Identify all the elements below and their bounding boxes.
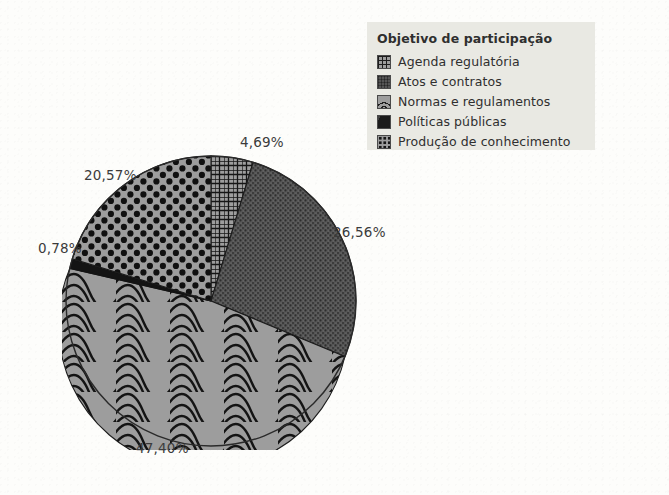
pie-chart <box>62 152 360 450</box>
pie-value-label-politicas-publicas: 0,78% <box>38 240 82 256</box>
pie-value-label-atos-e-contratos: 26,56% <box>333 224 386 240</box>
legend-item-politicas-publicas[interactable]: Políticas públicas <box>377 112 595 131</box>
dark-stipple-swatch-icon <box>377 75 391 89</box>
legend-item-producao-de-conhecimento[interactable]: Produção de conhecimento <box>377 132 595 151</box>
legend-item-label: Agenda regulatória <box>398 54 520 69</box>
legend-item-normas-e-regulamentos[interactable]: Normas e regulamentos <box>377 92 595 111</box>
legend-item-label: Atos e contratos <box>398 74 502 89</box>
polka-dots-swatch-icon <box>377 135 391 149</box>
chart-legend: Objetivo de participação Agenda regulató… <box>367 22 595 150</box>
legend-item-label: Produção de conhecimento <box>398 134 571 149</box>
pie-value-label-producao-de-conhecimento: 20,57% <box>84 167 137 183</box>
solid-black-swatch-icon <box>377 115 391 129</box>
legend-item-atos-e-contratos[interactable]: Atos e contratos <box>377 72 595 91</box>
chart-page: 4,69% 26,56% 47,40% 0,78% 20,57% Objetiv… <box>0 0 669 495</box>
wavy-arcs-swatch-icon <box>377 95 391 109</box>
pie-value-label-normas-e-regulamentos: 47,40% <box>136 440 189 456</box>
legend-item-label: Políticas públicas <box>398 114 507 129</box>
legend-item-agenda-regulatoria[interactable]: Agenda regulatória <box>377 52 595 71</box>
crosshatch-grid-swatch-icon <box>377 55 391 69</box>
pie-chart-svg <box>62 152 360 450</box>
pie-value-label-agenda-regulatoria: 4,69% <box>240 134 284 150</box>
legend-item-label: Normas e regulamentos <box>398 94 550 109</box>
legend-title: Objetivo de participação <box>377 31 595 46</box>
